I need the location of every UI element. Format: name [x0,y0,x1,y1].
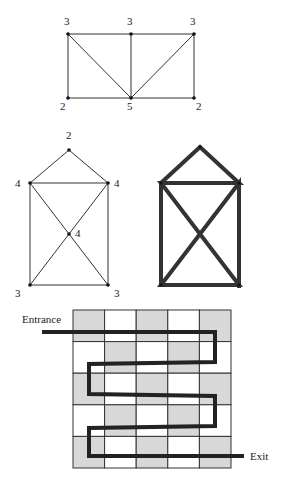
maze-cell [199,436,231,468]
top-graph-degree-label: 2 [60,100,66,112]
maze-cell [168,342,200,374]
maze-cell [136,405,168,437]
traced-vertex [159,181,162,184]
house-vertex [67,148,71,152]
house-vertex [106,181,110,185]
top-graph-vertex [129,32,133,36]
maze-cell [105,342,137,374]
traced-vertex [237,181,240,184]
traced-vertex [159,283,162,286]
house-vertex [28,283,32,287]
euler-trace-path [161,147,239,288]
house-degree-label: 3 [15,287,21,299]
house-degree-label: 3 [114,287,120,299]
house-vertex [28,181,32,185]
house-graph: 244433 [15,129,120,299]
maze-cell [168,310,200,342]
maze-cell [105,373,137,405]
house-degree-label: 2 [66,129,72,141]
entrance-label: Entrance [22,313,61,325]
top-graph-edge [68,34,131,98]
top-graph-vertex [192,32,196,36]
maze-cell [168,436,200,468]
maze-cell [73,310,105,342]
house-degree-label: 4 [15,177,21,189]
traced-vertex [198,145,201,148]
top-graph-degree-label: 3 [190,15,196,27]
maze-cell [136,342,168,374]
exit-label: Exit [250,450,268,462]
maze-cell [105,436,137,468]
house-degree-label: 4 [75,227,81,239]
house-vertex [67,232,71,236]
top-graph-edge [131,34,194,98]
house-edge [69,150,108,183]
maze-cell [136,310,168,342]
top-graph-degree-label: 2 [196,100,202,112]
maze-cell [105,405,137,437]
maze-cell [136,373,168,405]
maze-cell [105,310,137,342]
traced-vertex [237,283,240,286]
house-traced-graph [159,145,240,288]
top-graph-degree-label: 3 [127,15,133,27]
house-edge [69,234,108,285]
top-graph-degree-label: 5 [127,100,133,112]
top-graph: 333252 [60,15,202,112]
house-degree-label: 4 [114,177,120,189]
top-graph-degree-label: 3 [64,15,70,27]
diagram-canvas: 333252 244433 Entrance Exit [0,0,287,483]
maze-cell [168,405,200,437]
house-edge [30,150,69,183]
house-edge [30,234,69,285]
top-graph-vertex [66,96,70,100]
maze-grid [42,310,244,468]
top-graph-vertex [66,32,70,36]
maze-cell [168,373,200,405]
maze-cell [136,436,168,468]
house-edge [30,183,69,234]
house-vertex [106,283,110,287]
